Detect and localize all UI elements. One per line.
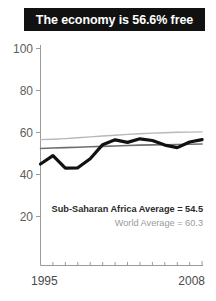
y-tick-label-40: 40 — [20, 168, 34, 182]
annotation-region-average: Sub-Saharan Africa Average = 54.5 — [52, 204, 203, 214]
series-world-average-line — [41, 132, 203, 140]
economic-freedom-chart: The economy is 56.6% free 100 80 60 40 2… — [0, 0, 216, 301]
y-tick-label-80: 80 — [20, 84, 34, 98]
x-tick-label-end: 2008 — [178, 274, 205, 288]
chart-plot-area: 100 80 60 40 20 1995 2008 — [0, 0, 216, 301]
y-tick-labels: 100 80 60 40 20 — [13, 42, 33, 224]
y-tick-label-100: 100 — [13, 42, 33, 56]
x-tick-marks — [41, 261, 203, 266]
y-tick-label-60: 60 — [20, 126, 34, 140]
annotation-world-average: World Average = 60.3 — [115, 218, 203, 228]
y-tick-label-20: 20 — [20, 210, 34, 224]
x-tick-label-start: 1995 — [31, 274, 58, 288]
y-tick-marks — [36, 49, 41, 217]
series-economic-freedom-line — [41, 139, 203, 168]
